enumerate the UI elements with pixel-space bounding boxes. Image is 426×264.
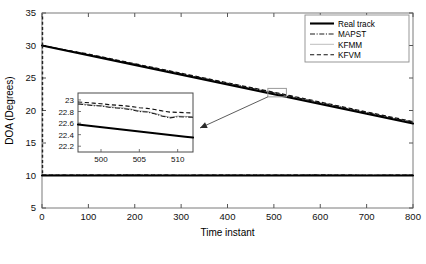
x-tick-label: 0 (39, 211, 44, 222)
y-tick-label: 25 (25, 72, 36, 83)
inset-x-tick-label: 500 (94, 155, 108, 164)
legend-label-kfvm: KFVM (338, 51, 361, 60)
x-tick-label: 200 (127, 211, 143, 222)
y-tick-label: 35 (25, 7, 36, 18)
x-axis-title: Time instant (200, 227, 254, 238)
y-tick-label: 15 (25, 137, 36, 148)
x-tick-label: 700 (359, 211, 375, 222)
inset-x-tick-label: 510 (171, 155, 185, 164)
y-axis-title: DOA (Degrees) (4, 76, 15, 144)
legend-label-kfmm: KFMM (338, 41, 362, 50)
x-tick-label: 400 (220, 211, 236, 222)
inset-y-tick-label: 23 (65, 96, 74, 105)
x-tick-label: 500 (266, 211, 282, 222)
legend-label-mapst: MAPST (338, 30, 366, 39)
inset-y-tick-label: 22.6 (58, 119, 74, 128)
figure-container: 01002003004005006007008005101520253035Ti… (0, 0, 426, 264)
inset-x-tick-label: 505 (133, 155, 147, 164)
inset-y-tick-label: 22.4 (58, 131, 74, 140)
inset-background (78, 93, 193, 152)
x-tick-label: 100 (80, 211, 96, 222)
y-tick-label: 20 (25, 105, 36, 116)
y-tick-label: 30 (25, 40, 36, 51)
doa-tracking-chart: 01002003004005006007008005101520253035Ti… (0, 0, 426, 264)
x-tick-label: 800 (405, 211, 421, 222)
x-tick-label: 600 (312, 211, 328, 222)
inset-y-tick-label: 22.2 (58, 142, 74, 151)
x-tick-label: 300 (173, 211, 189, 222)
zoom-callout-arrow-line (200, 97, 268, 128)
legend-label-real-track: Real track (338, 20, 376, 29)
y-tick-label: 5 (31, 202, 36, 213)
y-tick-label: 10 (25, 170, 36, 181)
inset-y-tick-label: 22.8 (58, 108, 74, 117)
